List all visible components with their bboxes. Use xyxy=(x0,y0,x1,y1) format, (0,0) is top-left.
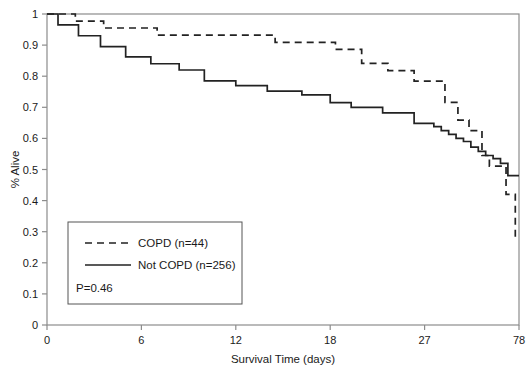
y-tick-label: 0 xyxy=(32,319,38,331)
x-tick-label: 6 xyxy=(138,334,144,346)
y-tick-label: 0.9 xyxy=(23,39,38,51)
y-tick-label: 0.3 xyxy=(23,226,38,238)
kaplan-meier-chart: 00.10.20.30.40.50.60.70.80.91 0612182778… xyxy=(0,0,531,369)
y-tick-label: 0.5 xyxy=(23,164,38,176)
x-tick-label: 78 xyxy=(513,334,525,346)
y-tick-label: 0.6 xyxy=(23,132,38,144)
legend-label-copd: COPD (n=44) xyxy=(138,237,208,249)
survival-curve-figure: 00.10.20.30.40.50.60.70.80.91 0612182778… xyxy=(0,0,531,369)
y-tick-label: 0.7 xyxy=(23,101,38,113)
x-tick-label: 0 xyxy=(44,334,50,346)
x-tick-label: 12 xyxy=(230,334,242,346)
y-tick-label: 0.4 xyxy=(23,195,38,207)
legend-pvalue: P=0.46 xyxy=(76,282,113,294)
x-axis-title: Survival Time (days) xyxy=(231,353,335,365)
y-tick-label: 0.2 xyxy=(23,257,38,269)
chart-background xyxy=(0,0,531,369)
y-axis-title: % Alive xyxy=(9,151,21,189)
legend-label-not-copd: Not COPD (n=256) xyxy=(138,259,236,271)
x-tick-label: 27 xyxy=(418,334,430,346)
x-tick-label: 18 xyxy=(324,334,336,346)
chart-legend: COPD (n=44) Not COPD (n=256) P=0.46 xyxy=(68,222,242,304)
y-tick-label: 1 xyxy=(32,8,38,20)
y-tick-label: 0.1 xyxy=(23,288,38,300)
y-tick-label: 0.8 xyxy=(23,70,38,82)
